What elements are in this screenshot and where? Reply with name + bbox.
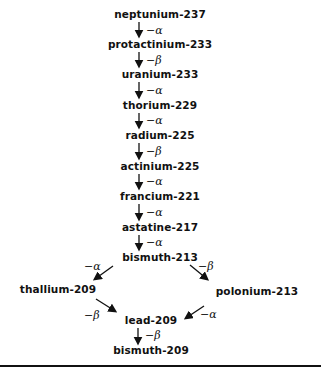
decay-label: −α <box>146 24 163 37</box>
node-francium-221: francium-221 <box>120 190 200 202</box>
node-thorium-229: thorium-229 <box>123 99 197 111</box>
decay-label: −β <box>198 260 214 273</box>
decay-label: −β <box>146 54 162 67</box>
node-uranium-233: uranium-233 <box>122 68 199 80</box>
decay-label: −α <box>84 260 101 273</box>
decay-label: −β <box>146 145 162 158</box>
node-protactinium-233: protactinium-233 <box>108 38 212 50</box>
node-radium-225: radium-225 <box>125 129 194 141</box>
decay-label: −α <box>146 114 163 127</box>
decay-label: −α <box>146 175 163 188</box>
decay-label: −β <box>84 309 100 322</box>
node-bismuth-209: bismuth-209 <box>113 344 189 356</box>
decay-label: −α <box>146 206 163 219</box>
decay-label: −α <box>200 308 217 321</box>
node-astatine-217: astatine-217 <box>122 221 198 233</box>
node-polonium-213: polonium-213 <box>216 285 299 297</box>
node-lead-209: lead-209 <box>125 314 177 326</box>
decay-label: −α <box>146 84 163 97</box>
node-bismuth-213: bismuth-213 <box>122 251 198 263</box>
bottom-divider <box>0 365 321 367</box>
node-thallium-209: thallium-209 <box>20 283 96 295</box>
decay-label: −β <box>145 329 161 342</box>
decay-label: −α <box>146 236 163 249</box>
node-actinium-225: actinium-225 <box>121 160 200 172</box>
node-neptunium-237: neptunium-237 <box>114 8 206 20</box>
